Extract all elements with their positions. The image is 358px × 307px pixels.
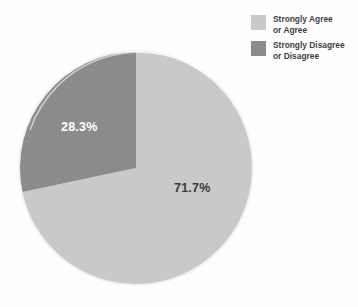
chart-legend: Strongly Agree or Agree Strongly Disagre… xyxy=(251,14,358,66)
legend-item-label: Strongly Agree or Agree xyxy=(273,14,333,35)
chart-plot-area: 28.3% 71.7% xyxy=(0,0,270,307)
pie-chart-figure: 28.3% 71.7% Strongly Agree or Agree Stro… xyxy=(0,0,358,307)
pie-chart-svg xyxy=(0,0,270,307)
slice-value-label-strongly-disagree: 28.3% xyxy=(61,120,97,134)
legend-item-strongly-disagree[interactable]: Strongly Disagree or Disagree xyxy=(251,40,358,61)
legend-item-strongly-agree[interactable]: Strongly Agree or Agree xyxy=(251,14,358,35)
legend-item-label: Strongly Disagree or Disagree xyxy=(273,40,345,61)
legend-swatch-icon xyxy=(251,41,266,56)
slice-value-label-strongly-agree: 71.7% xyxy=(174,181,210,195)
legend-swatch-icon xyxy=(251,15,266,30)
